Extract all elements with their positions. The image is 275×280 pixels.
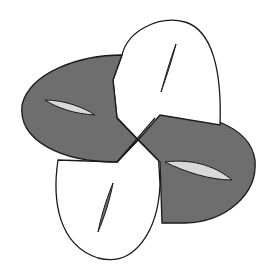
genus-two-surface-diagram [0,0,275,280]
